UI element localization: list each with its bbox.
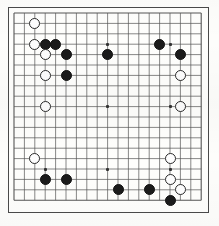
black-stone[interactable] [40,39,51,50]
black-stone[interactable] [154,39,165,50]
black-stone[interactable] [61,49,72,60]
go-board[interactable] [0,0,219,226]
black-stone[interactable] [113,184,124,195]
white-stone[interactable] [40,101,51,112]
white-stone[interactable] [175,70,186,81]
white-stone[interactable] [40,49,51,60]
white-stone[interactable] [165,174,176,185]
hoshi-point [106,105,109,108]
hoshi-point [169,168,172,171]
hoshi-point [106,168,109,171]
black-stone[interactable] [50,39,61,50]
white-stone[interactable] [29,39,40,50]
black-stone[interactable] [175,49,186,60]
black-stone[interactable] [165,195,176,206]
hoshi-point [44,168,47,171]
hoshi-point [169,105,172,108]
black-stone[interactable] [144,184,155,195]
white-stone[interactable] [175,101,186,112]
white-stone[interactable] [40,70,51,81]
black-stone[interactable] [61,70,72,81]
black-stone[interactable] [40,174,51,185]
black-stone[interactable] [61,174,72,185]
hoshi-point [169,43,172,46]
hoshi-point [106,43,109,46]
white-stone[interactable] [165,153,176,164]
